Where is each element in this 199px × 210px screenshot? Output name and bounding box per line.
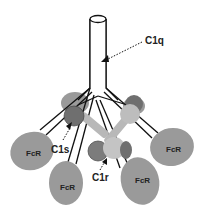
c1r-c1s-tetramer [64,104,140,161]
fcr-head-right: FcR [147,124,197,169]
svg-text:FcR: FcR [26,149,41,158]
svg-text:FcR: FcR [60,183,75,192]
c1q-pointer: C1q [101,35,164,62]
c1s-label: C1s [51,144,70,155]
svg-text:FcR: FcR [135,176,150,185]
c1s-left [64,106,84,126]
c1q-label: C1q [145,35,164,46]
c1-complex-diagram: FcR FcR FcR FcR C1q C1s C1r [0,0,199,210]
c1r-pointer: C1r [92,158,109,183]
svg-text:FcR: FcR [166,145,181,154]
c1q-stalk [78,16,118,101]
fcr-head-bottom-left: FcR [49,161,83,205]
c1r-label: C1r [92,172,109,183]
c1r-shadow [120,141,132,159]
c1s-right [120,104,140,124]
